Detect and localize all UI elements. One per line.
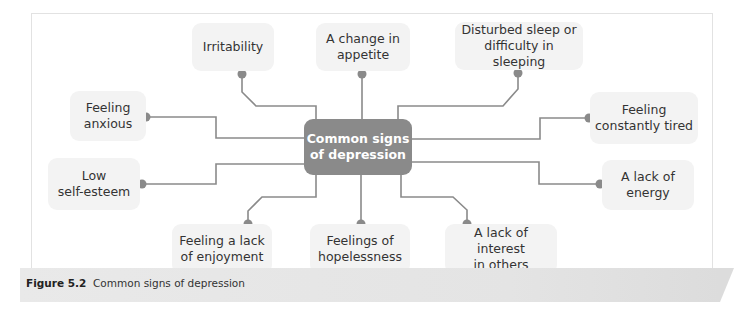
node-text: difficulty in sleeping [459, 38, 579, 70]
node-interest: A lack of interestin others [445, 224, 557, 274]
node-text: constantly tired [595, 118, 693, 134]
node-self-esteem: Lowself-esteem [48, 158, 140, 210]
node-text: energy [621, 185, 675, 201]
node-text: Feeling a lack [179, 233, 265, 249]
node-text: Irritability [203, 39, 263, 55]
node-energy: A lack ofenergy [602, 160, 694, 210]
figure-caption: Figure 5.2 Common signs of depression [26, 277, 245, 289]
node-text: appetite [326, 47, 400, 63]
node-tired: Feelingconstantly tired [590, 92, 698, 144]
node-hopelessness: Feelings ofhopelessness [310, 224, 410, 274]
node-text: Low [58, 168, 131, 184]
figure-label: Figure 5.2 [26, 277, 86, 289]
center-line2: of depression [307, 147, 410, 163]
node-text: Feeling [84, 100, 133, 116]
node-text: hopelessness [318, 249, 402, 265]
node-text: Feelings of [318, 233, 402, 249]
caption-text: Common signs of depression [93, 277, 245, 289]
node-text: A lack of interest [449, 225, 553, 257]
node-text: self-esteem [58, 184, 131, 200]
node-enjoyment: Feeling a lackof enjoyment [172, 224, 272, 274]
node-text: Feeling [595, 102, 693, 118]
node-text: anxious [84, 116, 133, 132]
center-node: Common signsof depression [304, 119, 412, 175]
center-line1: Common signs [307, 131, 410, 147]
node-text: A change in [326, 31, 400, 47]
node-appetite: A change inappetite [316, 23, 410, 71]
node-sleep: Disturbed sleep ordifficulty in sleeping [455, 22, 583, 70]
node-text: of enjoyment [179, 249, 265, 265]
node-anxious: Feelinganxious [70, 91, 146, 141]
node-text: A lack of [621, 169, 675, 185]
node-text: Disturbed sleep or [459, 22, 579, 38]
node-irritability: Irritability [192, 23, 274, 71]
